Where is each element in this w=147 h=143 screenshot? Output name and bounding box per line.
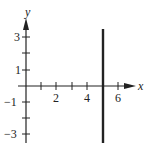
x-axis-label: x [137,79,144,93]
y-tick-label-neg3: −3 [4,127,17,141]
x-tick-label-4: 4 [84,91,90,105]
x-tick-label-6: 6 [115,91,121,105]
y-axis-label: y [24,5,31,19]
x-tick-label-2: 2 [53,91,59,105]
y-axis-arrow-icon [23,18,29,30]
y-tick-label-3: 3 [14,30,20,44]
y-tick-label-1: 1 [15,63,21,77]
y-tick-label-neg1: −1 [4,95,17,109]
x-axis-arrow-icon [124,83,136,89]
graph: y x 2 4 6 3 1 −1 −3 [0,0,147,143]
